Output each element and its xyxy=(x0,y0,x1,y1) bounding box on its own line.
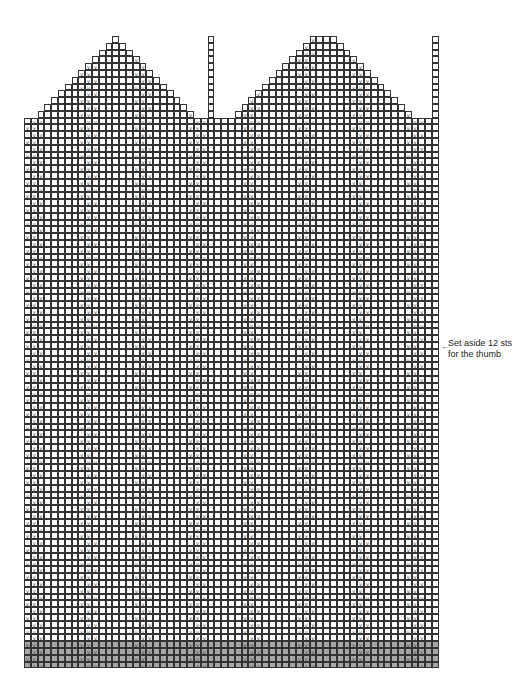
chart-cell xyxy=(425,594,432,601)
chart-cell xyxy=(384,233,391,240)
chart-cell xyxy=(78,335,85,342)
chart-cell: v xyxy=(350,573,357,580)
chart-cell xyxy=(391,424,398,431)
chart-cell xyxy=(51,614,58,621)
chart-cell: v xyxy=(31,485,38,492)
chart-cell: v xyxy=(194,233,201,240)
chart-cell xyxy=(214,594,221,601)
chart-cell xyxy=(221,356,228,363)
chart-cell: v xyxy=(296,233,303,240)
chart-cell xyxy=(208,50,215,57)
chart-cell xyxy=(425,607,432,614)
chart-cell xyxy=(72,498,79,505)
chart-cell xyxy=(384,226,391,233)
chart-cell xyxy=(106,233,113,240)
chart-cell: v xyxy=(194,444,201,451)
chart-cell: v xyxy=(303,199,310,206)
chart-cell xyxy=(92,179,99,186)
chart-cell: v xyxy=(92,308,99,315)
chart-cell xyxy=(337,560,344,567)
chart-cell xyxy=(350,390,357,397)
chart-cell xyxy=(208,63,215,70)
chart-cell: v xyxy=(242,301,249,308)
chart-cell xyxy=(269,641,276,648)
chart-cell xyxy=(92,124,99,131)
chart-cell xyxy=(371,424,378,431)
chart-cell xyxy=(180,342,187,349)
chart-cell xyxy=(344,226,351,233)
chart-cell xyxy=(371,118,378,125)
chart-cell xyxy=(391,131,398,138)
chart-cell xyxy=(72,662,79,669)
chart-cell xyxy=(378,546,385,553)
chart-cell xyxy=(221,254,228,261)
chart-cell xyxy=(344,594,351,601)
chart-cell xyxy=(51,532,58,539)
chart-cell xyxy=(425,199,432,206)
chart-cell: v xyxy=(242,369,249,376)
chart-cell: v xyxy=(92,634,99,641)
chart-cell xyxy=(126,220,133,227)
chart-cell xyxy=(112,458,119,465)
chart-cell: v xyxy=(303,301,310,308)
chart-cell: v xyxy=(255,566,262,573)
chart-cell xyxy=(167,138,174,145)
chart-cell xyxy=(323,158,330,165)
chart-cell xyxy=(221,274,228,281)
chart-cell xyxy=(371,376,378,383)
chart-cell xyxy=(228,621,235,628)
chart-cell xyxy=(364,451,371,458)
chart-cell xyxy=(323,641,330,648)
chart-cell xyxy=(350,607,357,614)
chart-cell xyxy=(310,84,317,91)
chart-cell: v xyxy=(38,471,45,478)
chart-cell xyxy=(65,158,72,165)
chart-cell xyxy=(153,288,160,295)
chart-cell xyxy=(276,424,283,431)
chart-cell xyxy=(337,165,344,172)
chart-cell xyxy=(44,621,51,628)
chart-cell xyxy=(51,124,58,131)
chart-cell xyxy=(160,254,167,261)
chart-cell xyxy=(425,220,432,227)
chart-cell: v xyxy=(303,349,310,356)
chart-cell xyxy=(269,546,276,553)
chart-cell xyxy=(44,362,51,369)
chart-cell xyxy=(282,417,289,424)
chart-cell xyxy=(344,138,351,145)
chart-cell: v xyxy=(146,118,153,125)
chart-cell xyxy=(174,560,181,567)
chart-cell xyxy=(323,553,330,560)
chart-cell xyxy=(133,607,140,614)
chart-cell xyxy=(378,376,385,383)
chart-cell xyxy=(242,444,249,451)
chart-cell xyxy=(221,478,228,485)
chart-cell xyxy=(106,281,113,288)
chart-cell: v xyxy=(242,410,249,417)
chart-cell xyxy=(214,308,221,315)
chart-cell xyxy=(174,369,181,376)
chart-cell: v xyxy=(303,104,310,111)
chart-cell: v xyxy=(412,369,419,376)
chart-cell xyxy=(296,648,303,655)
chart-cell xyxy=(425,410,432,417)
chart-cell xyxy=(289,186,296,193)
chart-cell xyxy=(208,254,215,261)
chart-cell xyxy=(398,369,405,376)
chart-cell: v xyxy=(187,342,194,349)
chart-cell xyxy=(344,655,351,662)
chart-cell xyxy=(391,532,398,539)
chart-cell xyxy=(330,308,337,315)
chart-cell xyxy=(65,519,72,526)
chart-cell xyxy=(316,634,323,641)
chart-cell xyxy=(146,614,153,621)
chart-cell: v xyxy=(418,485,425,492)
chart-cell: v xyxy=(405,274,412,281)
chart-cell xyxy=(38,111,45,118)
chart-cell xyxy=(214,145,221,152)
chart-cell xyxy=(160,213,167,220)
chart-cell xyxy=(208,403,215,410)
chart-cell: v xyxy=(31,451,38,458)
chart-cell xyxy=(323,328,330,335)
chart-cell: v xyxy=(24,464,31,471)
